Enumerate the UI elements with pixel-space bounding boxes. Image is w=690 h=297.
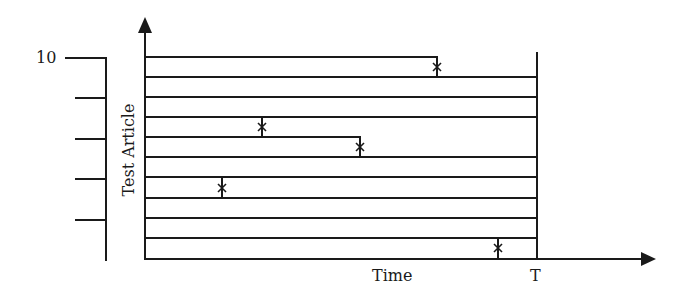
x-axis-label: Time — [372, 266, 412, 285]
y-axis-label: Test Article — [119, 104, 138, 197]
diagram-canvas — [0, 0, 690, 297]
end-time-label: T — [530, 266, 541, 285]
left-scale — [66, 58, 106, 260]
test-article-diagram: 10 Test Article Time T — [0, 0, 690, 297]
y-axis-arrow-icon — [138, 17, 152, 33]
x-axis-arrow-icon — [641, 252, 656, 266]
article-lines — [145, 57, 537, 238]
top-count-label: 10 — [36, 48, 56, 67]
